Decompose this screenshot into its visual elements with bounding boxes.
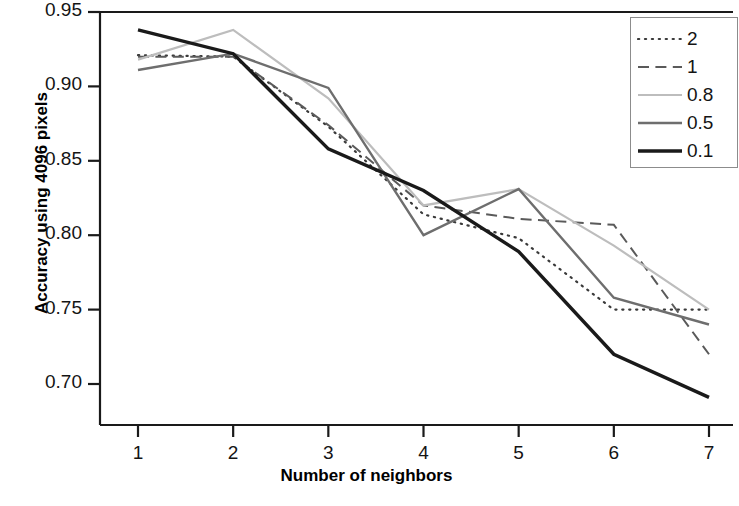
legend-label: 1 [687,54,698,80]
legend-item-0.8[interactable]: 0.8 [631,80,739,110]
legend-item-0.1[interactable]: 0.1 [631,136,739,166]
legend-label: 0.1 [687,138,713,164]
legend-swatch-icon [637,80,683,110]
series-line-2 [138,55,709,309]
legend-swatch-icon [637,52,683,82]
legend-swatch-icon [637,24,683,54]
series-line-0.1 [138,30,709,398]
axis-ticks [88,12,709,437]
legend-swatch-icon [637,136,683,166]
legend-label: 0.5 [687,110,713,136]
series-line-0.8 [138,30,709,310]
legend-swatch-icon [637,108,683,138]
legend-label: 0.8 [687,82,713,108]
legend-item-1[interactable]: 1 [631,52,739,82]
legend-label: 2 [687,26,698,52]
legend: 210.80.50.1 [630,17,738,168]
legend-item-2[interactable]: 2 [631,24,739,54]
series-lines [138,30,709,398]
legend-item-0.5[interactable]: 0.5 [631,108,739,138]
